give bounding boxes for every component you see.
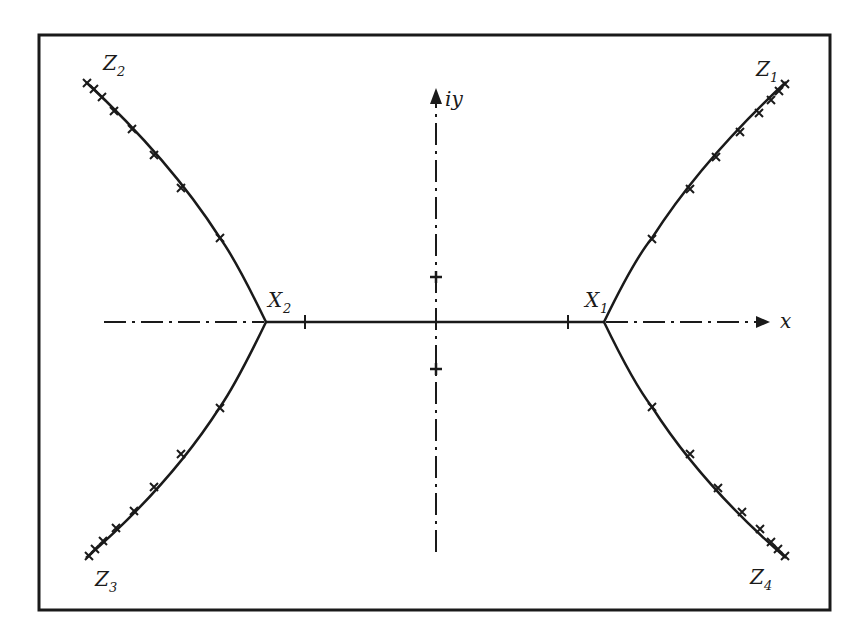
curve-x2-z2 [86,82,266,322]
svg-text:1: 1 [600,301,608,316]
y-axis-marker-lower [430,363,442,375]
label-x1: X 1 [583,288,608,316]
x-axis-label: x [780,309,791,333]
svg-text:X: X [583,288,600,312]
curve-x1-z4 [604,322,786,558]
curve-x1-z1 [604,82,786,322]
y-axis-arrow-icon [430,88,442,104]
label-z3: Z 3 [94,567,117,595]
y-axis-marker-upper [430,271,442,283]
svg-text:Z: Z [102,51,118,75]
svg-text:Z: Z [755,57,771,81]
svg-text:1: 1 [770,70,778,85]
svg-text:2: 2 [116,64,125,79]
label-z4: Z 4 [749,565,772,593]
branch-diagram: x iy [0,0,864,637]
svg-text:Z: Z [94,567,110,591]
label-z1: Z 1 [755,57,778,85]
curve-x2-z3 [86,322,266,558]
label-z2: Z 2 [102,51,125,79]
y-axis-label: iy [445,87,463,111]
svg-text:2: 2 [282,301,291,316]
x-axis-arrow-icon [756,316,770,328]
svg-text:4: 4 [763,578,772,593]
svg-text:Z: Z [749,565,765,589]
svg-text:3: 3 [109,580,117,595]
label-x2: X 2 [266,288,291,316]
svg-text:X: X [266,288,283,312]
